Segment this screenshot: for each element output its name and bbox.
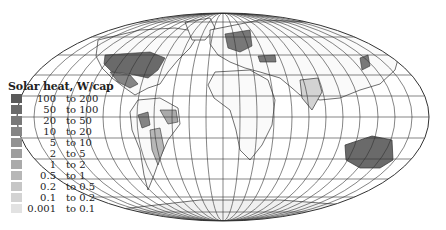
legend-item: 2to 5 — [6, 148, 121, 159]
legend-item: 0.5to 1 — [6, 170, 121, 181]
legend-swatch — [11, 149, 22, 158]
legend-swatch — [11, 160, 22, 169]
legend-title: Solar heat, W/cap — [8, 80, 121, 93]
legend-item: 1to 2 — [6, 159, 121, 170]
legend-item: 5to 10 — [6, 137, 121, 148]
legend-item: 0.1to 0.2 — [6, 192, 121, 203]
legend-item: 100to 200 — [6, 93, 121, 104]
legend-swatch — [11, 127, 22, 136]
legend-swatch — [11, 182, 22, 191]
legend: Solar heat, W/cap 100to 200 50to 100 20t… — [6, 80, 121, 214]
legend-swatch — [11, 193, 22, 202]
legend-item: 10to 20 — [6, 126, 121, 137]
legend-item: 0.001to 0.1 — [6, 203, 121, 214]
legend-swatch — [11, 116, 22, 125]
legend-item: 50to 100 — [6, 104, 121, 115]
legend-swatch — [11, 138, 22, 147]
legend-swatch — [11, 171, 22, 180]
legend-swatch — [11, 94, 22, 103]
solar-heat-world-map: Solar heat, W/cap 100to 200 50to 100 20t… — [0, 0, 446, 230]
legend-swatch — [11, 105, 22, 114]
legend-item: 20to 50 — [6, 115, 121, 126]
legend-item: 0.2to 0.5 — [6, 181, 121, 192]
legend-swatch — [11, 204, 22, 213]
